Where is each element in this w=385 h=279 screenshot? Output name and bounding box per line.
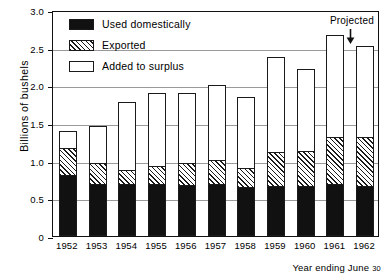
bar-segment-used-domestically <box>209 185 225 235</box>
projected-arrow-icon <box>345 29 356 45</box>
bar-segment-used-domestically <box>238 188 254 235</box>
y-axis-tick-mark <box>48 163 53 164</box>
bar-segment-used-domestically <box>327 185 343 235</box>
bar-segment-exported <box>149 166 165 186</box>
legend-label-exported: Exported <box>102 39 146 51</box>
x-axis-tick-label-1957: 1957 <box>201 240 231 251</box>
bar-1960 <box>297 69 315 236</box>
x-axis-tick-label-1953: 1953 <box>82 240 112 251</box>
legend-swatch-exported-icon <box>69 40 94 51</box>
bar-segment-used-domestically <box>268 187 284 235</box>
bar-segment-exported <box>209 160 225 185</box>
bar-segment-added-to-surplus <box>268 58 284 152</box>
x-axis-title: Year ending June30 <box>292 262 381 273</box>
bar-segment-exported <box>327 137 343 185</box>
bar-1952 <box>59 131 77 236</box>
bar-segment-added-to-surplus <box>119 103 135 170</box>
legend-label-added-to-surplus: Added to surplus <box>102 60 184 72</box>
x-axis-tick-label-1958: 1958 <box>230 240 260 251</box>
y-axis-tick-mark <box>48 87 53 88</box>
bar-1953 <box>89 126 107 236</box>
bar-segment-used-domestically <box>149 185 165 235</box>
bar-segment-added-to-surplus <box>209 86 225 161</box>
y-axis-tick-label: 3.0 <box>0 6 44 17</box>
bar-segment-exported <box>179 163 195 186</box>
bar-segment-exported <box>298 151 314 187</box>
stacked-bar-chart: Billions of bushels 00.51.01.52.02.53.0 … <box>0 0 385 279</box>
y-axis-tick-mark <box>48 50 53 51</box>
bar-segment-exported <box>238 168 254 188</box>
x-axis-tick-label-1959: 1959 <box>260 240 290 251</box>
bar-segment-used-domestically <box>357 187 373 235</box>
y-axis-tick-mark <box>48 12 53 13</box>
bar-segment-added-to-surplus <box>298 70 314 151</box>
legend-item-added-to-surplus: Added to surplus <box>69 60 191 72</box>
bar-segment-used-domestically <box>90 185 106 235</box>
x-axis-tick-label-1956: 1956 <box>171 240 201 251</box>
y-axis-tick-label: 2.5 <box>0 43 44 54</box>
bar-segment-added-to-surplus <box>179 94 195 164</box>
bar-1957 <box>208 85 226 236</box>
legend-item-used-domestically: Used domestically <box>69 18 191 30</box>
x-axis-title-suffix: 30 <box>372 264 381 273</box>
bar-segment-added-to-surplus <box>60 132 76 149</box>
bar-segment-used-domestically <box>298 187 314 235</box>
bar-segment-exported <box>357 137 373 187</box>
y-axis-tick-label: 1.0 <box>0 156 44 167</box>
bar-segment-exported <box>90 163 106 184</box>
legend: Used domestically Exported Added to surp… <box>69 18 191 81</box>
bar-1955 <box>148 93 166 236</box>
x-axis-title-main: Year ending June <box>292 262 369 273</box>
bar-segment-exported <box>119 170 135 184</box>
y-axis-tick-mark <box>48 200 53 201</box>
y-axis-tick-mark <box>48 125 53 126</box>
bar-segment-added-to-surplus <box>90 127 106 163</box>
bar-1962 <box>356 46 374 236</box>
bar-segment-used-domestically <box>119 185 135 235</box>
legend-swatch-added-to-surplus-icon <box>69 61 94 72</box>
bar-segment-used-domestically <box>179 186 195 235</box>
x-axis-tick-label-1960: 1960 <box>290 240 320 251</box>
bar-1958 <box>237 97 255 236</box>
bar-segment-added-to-surplus <box>149 94 165 166</box>
x-axis-tick-label-1952: 1952 <box>52 240 82 251</box>
bar-1961 <box>326 35 344 236</box>
bar-segment-added-to-surplus <box>238 98 254 168</box>
x-axis-tick-label-1962: 1962 <box>349 240 379 251</box>
bar-segment-added-to-surplus <box>327 36 343 137</box>
bar-segment-exported <box>60 148 76 175</box>
legend-item-exported: Exported <box>69 39 191 51</box>
bar-1959 <box>267 57 285 236</box>
bar-1954 <box>118 102 136 236</box>
y-axis-tick-label: 2.0 <box>0 81 44 92</box>
bar-segment-exported <box>268 152 284 187</box>
y-axis-tick-label: 0 <box>0 232 44 243</box>
legend-swatch-used-domestically-icon <box>69 19 94 30</box>
y-axis-title: Billions of bushels <box>18 36 30 176</box>
legend-label-used-domestically: Used domestically <box>102 18 191 30</box>
y-axis-tick-label: 1.5 <box>0 119 44 130</box>
x-axis-tick-label-1955: 1955 <box>141 240 171 251</box>
y-axis-tick-label: 0.5 <box>0 194 44 205</box>
y-axis-tick-mark <box>48 238 53 239</box>
projected-annotation-label: Projected <box>330 15 374 26</box>
bar-segment-added-to-surplus <box>357 47 373 137</box>
bar-segment-used-domestically <box>60 176 76 236</box>
plot-area: Projected Used domestically Exported Add… <box>52 11 379 237</box>
bar-1956 <box>178 93 196 236</box>
x-axis-tick-label-1954: 1954 <box>111 240 141 251</box>
x-axis-tick-label-1961: 1961 <box>320 240 350 251</box>
